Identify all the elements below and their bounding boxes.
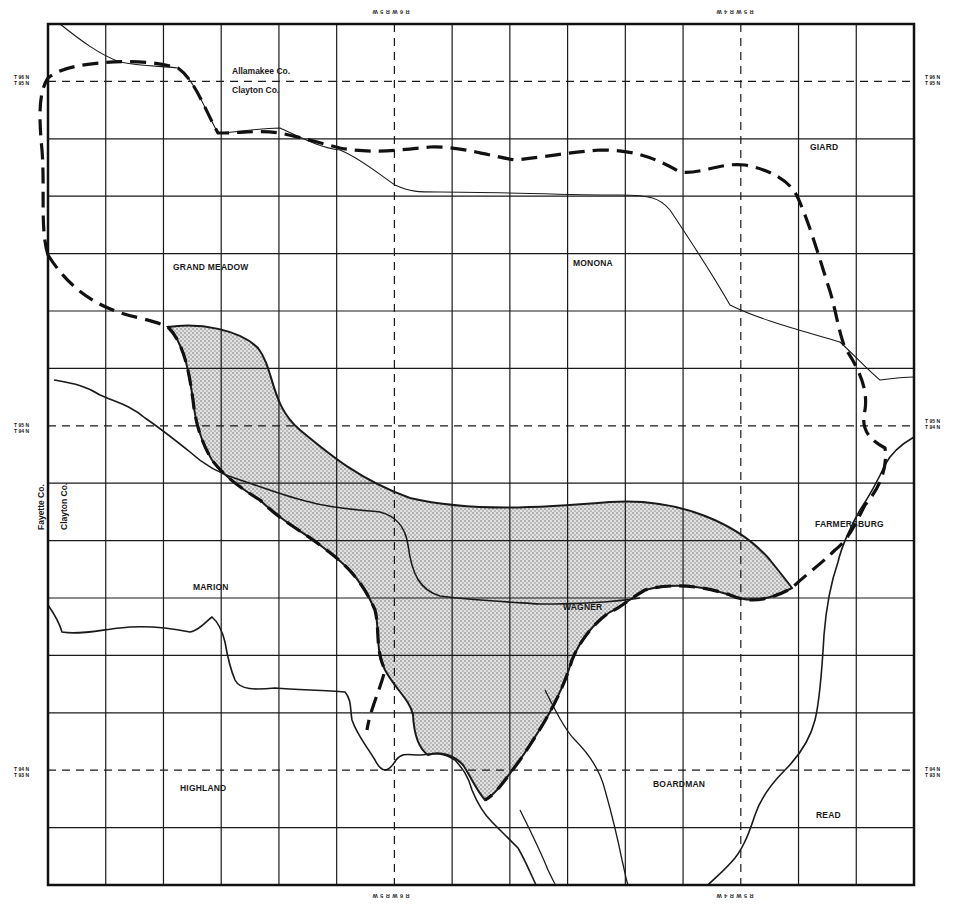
township-row-label-left-94-93: T 94 NT 93 N bbox=[14, 766, 29, 778]
township-label-monona: MONONA bbox=[573, 259, 613, 268]
township-label-grand-meadow: GRAND MEADOW bbox=[173, 263, 249, 272]
township-row-south: T 93 N bbox=[925, 772, 940, 778]
township-map bbox=[0, 0, 958, 905]
township-label-highland: HIGHLAND bbox=[180, 784, 226, 793]
range-label-top-left: R 6 W R 5 W bbox=[372, 8, 410, 14]
township-label-farmersburg: FARMERSBURG bbox=[815, 520, 884, 529]
range-label-bottom-right: R 5 W R 4 W bbox=[716, 892, 754, 898]
township-row-label-right-96-95: T 96 NT 95 N bbox=[925, 74, 940, 86]
township-row-south: T 93 N bbox=[14, 772, 29, 778]
township-row-label-left-95-94: T 95 NT 94 N bbox=[14, 422, 29, 434]
township-row-south: T 94 N bbox=[925, 424, 940, 430]
township-row-south: T 95 N bbox=[14, 80, 29, 86]
county-label-allamakee: Allamakee Co. bbox=[232, 67, 290, 76]
range-label-top-right: R 5 W R 4 W bbox=[716, 8, 754, 14]
county-label-clayton-top: Clayton Co. bbox=[232, 86, 279, 95]
county-label-clayton-left: Clayton Co. bbox=[60, 483, 69, 530]
township-label-read: READ bbox=[816, 811, 841, 820]
county-label-fayette: Fayette Co. bbox=[37, 484, 46, 530]
township-row-south: T 94 N bbox=[14, 428, 29, 434]
township-label-giard: GIARD bbox=[810, 143, 838, 152]
township-label-boardman: BOARDMAN bbox=[653, 780, 705, 789]
township-label-marion: MARION bbox=[193, 583, 229, 592]
township-row-label-left-96-95: T 96 NT 95 N bbox=[14, 74, 29, 86]
township-row-label-right-95-94: T 95 NT 94 N bbox=[925, 418, 940, 430]
township-label-wagner: WAGNER bbox=[563, 603, 602, 612]
township-row-label-right-94-93: T 94 NT 93 N bbox=[925, 766, 940, 778]
range-label-bottom-left: R 6 W R 5 W bbox=[372, 892, 410, 898]
township-row-south: T 95 N bbox=[925, 80, 940, 86]
